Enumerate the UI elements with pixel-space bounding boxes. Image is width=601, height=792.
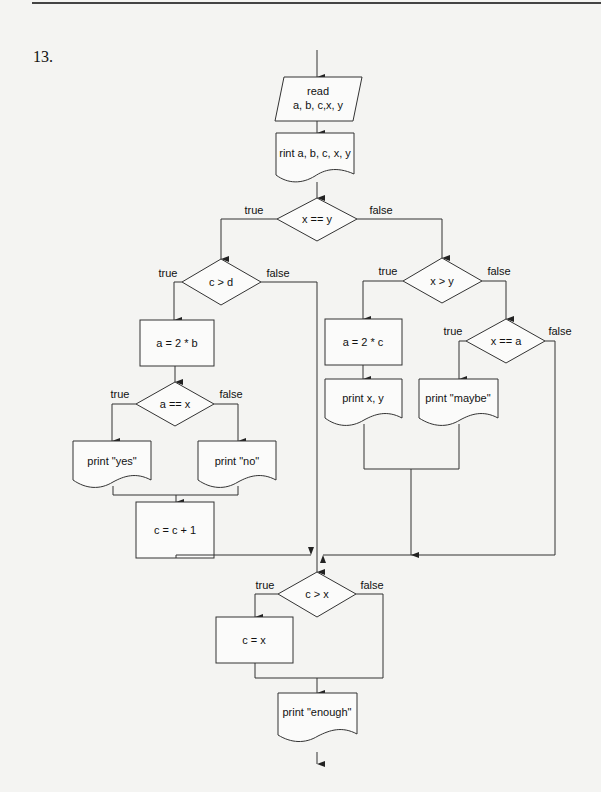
process-label: a = 2 * b xyxy=(156,337,197,349)
increment-c-node: c = c + 1 xyxy=(136,502,214,558)
false-label: false xyxy=(369,204,392,216)
print-no-node: print "no" xyxy=(198,441,276,487)
print-initial-label: rint a, b, c, x, y xyxy=(279,147,351,159)
print-yes-node: print "yes" xyxy=(73,441,151,487)
decision-label: c > d xyxy=(209,276,233,288)
print-enough-node: print "enough" xyxy=(278,693,357,742)
process-label: a = 2 * c xyxy=(343,336,384,348)
false-label: false xyxy=(360,579,383,591)
decision-label: a == x xyxy=(160,398,191,410)
false-label: false xyxy=(266,267,289,279)
decision-label: x == y xyxy=(302,213,332,225)
false-branch xyxy=(214,404,238,441)
output-label: print x, y xyxy=(342,392,384,404)
flowchart: read a, b, c,x, y rint a, b, c, x, y x =… xyxy=(0,0,601,792)
assign-a-2c-node: a = 2 * c xyxy=(325,319,402,365)
print-maybe-node: print "maybe" xyxy=(419,379,498,425)
input-label-line1: read xyxy=(307,85,329,97)
true-branch xyxy=(112,404,136,441)
join-line xyxy=(364,424,459,469)
false-label: false xyxy=(219,388,242,400)
false-branch xyxy=(482,281,506,319)
input-label-line2: a, b, c,x, y xyxy=(293,99,344,111)
process-label: c = c + 1 xyxy=(154,524,196,536)
decision-label: x > y xyxy=(430,275,454,287)
true-label: true xyxy=(444,325,463,337)
output-label: print "enough" xyxy=(283,706,352,718)
output-label: print "yes" xyxy=(87,455,136,467)
assign-c-x-node: c = x xyxy=(216,617,293,663)
false-branch xyxy=(323,341,555,555)
true-label: true xyxy=(245,204,264,216)
print-xy-node: print x, y xyxy=(325,379,402,425)
assign-a-2b-node: a = 2 * b xyxy=(140,320,214,366)
output-label: print "maybe" xyxy=(425,392,490,404)
true-branch xyxy=(221,219,277,259)
false-label: false xyxy=(487,265,510,277)
true-label: true xyxy=(379,265,398,277)
process-label: c = x xyxy=(242,634,266,646)
true-branch xyxy=(255,594,278,617)
true-branch xyxy=(363,281,403,319)
true-branch xyxy=(459,341,466,379)
true-label: true xyxy=(256,579,275,591)
false-label: false xyxy=(548,325,571,337)
false-branch xyxy=(261,282,317,555)
true-branch xyxy=(174,282,182,320)
decision-label: x == a xyxy=(491,335,522,347)
decision-label: c > x xyxy=(305,588,329,600)
true-label: true xyxy=(111,388,130,400)
print-initial-node: rint a, b, c, x, y xyxy=(276,133,354,182)
output-label: print "no" xyxy=(215,455,260,467)
true-label: true xyxy=(159,267,178,279)
input-read-node: read a, b, c,x, y xyxy=(275,77,362,121)
false-branch xyxy=(357,219,442,258)
